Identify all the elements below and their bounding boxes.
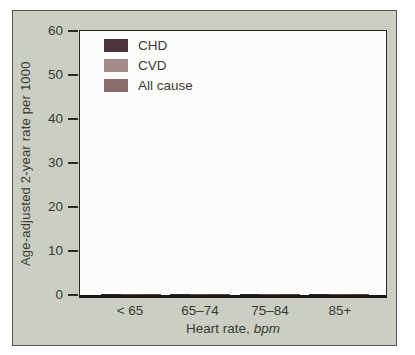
x-axis-title-unit: bpm: [254, 321, 280, 336]
y-tick-label: 40: [48, 112, 63, 126]
bar-chd: [170, 294, 190, 295]
legend: CHDCVDAll cause: [104, 39, 193, 99]
figure: Age-adjusted 2-year rate per 1000 010203…: [0, 0, 415, 355]
legend-swatch: [104, 79, 128, 92]
plot-area: 0102030405060 CHDCVDAll cause: [79, 30, 387, 298]
legend-item: CVD: [104, 59, 193, 72]
y-tick: 60: [32, 24, 78, 38]
bar-group: [101, 294, 161, 295]
bar-cvd: [121, 294, 141, 295]
bar-group: [240, 294, 300, 295]
bar-chd: [101, 294, 121, 295]
y-tick-label: 0: [55, 288, 63, 302]
x-axis-title: Heart rate, bpm: [79, 321, 387, 336]
y-tick: 20: [32, 200, 78, 214]
y-tick-label: 30: [48, 156, 63, 170]
x-tick-label: < 65: [100, 303, 160, 318]
bar-all-cause: [210, 294, 230, 295]
bar-all-cause: [280, 294, 300, 295]
bar-group: [170, 294, 230, 295]
y-tick-mark: [68, 162, 78, 164]
bar-chd: [309, 294, 329, 295]
y-tick-mark: [68, 294, 78, 296]
figure-frame: Age-adjusted 2-year rate per 1000 010203…: [12, 10, 397, 346]
y-tick: 10: [32, 244, 78, 258]
bar-all-cause: [141, 294, 161, 295]
bar-cvd: [260, 294, 280, 295]
legend-label: CHD: [138, 39, 167, 53]
bar-chd: [240, 294, 260, 295]
y-tick-mark: [68, 250, 78, 252]
legend-label: CVD: [138, 59, 167, 73]
y-tick-label: 60: [48, 24, 63, 38]
x-tick-label: 65–74: [170, 303, 230, 318]
y-tick: 50: [32, 68, 78, 82]
bar-all-cause: [349, 294, 369, 295]
x-tick-label: 85+: [310, 303, 370, 318]
y-tick-label: 10: [48, 244, 63, 258]
y-tick: 30: [32, 156, 78, 170]
bar-group: [309, 294, 369, 295]
legend-swatch: [104, 39, 128, 52]
y-tick-label: 20: [48, 200, 63, 214]
x-tick-label: 75–84: [240, 303, 300, 318]
y-tick: 0: [32, 288, 78, 302]
y-tick: 40: [32, 112, 78, 126]
y-tick-mark: [68, 30, 78, 32]
y-tick-label: 50: [48, 68, 63, 82]
legend-label: All cause: [138, 79, 193, 93]
bar-cvd: [190, 294, 210, 295]
legend-item: CHD: [104, 39, 193, 52]
legend-item: All cause: [104, 79, 193, 92]
y-tick-mark: [68, 118, 78, 120]
legend-swatch: [104, 59, 128, 72]
y-tick-mark: [68, 74, 78, 76]
x-axis-title-text: Heart rate,: [186, 321, 250, 336]
bar-cvd: [329, 294, 349, 295]
y-tick-mark: [68, 206, 78, 208]
x-axis-labels: < 6565–7475–8485+: [79, 303, 387, 318]
